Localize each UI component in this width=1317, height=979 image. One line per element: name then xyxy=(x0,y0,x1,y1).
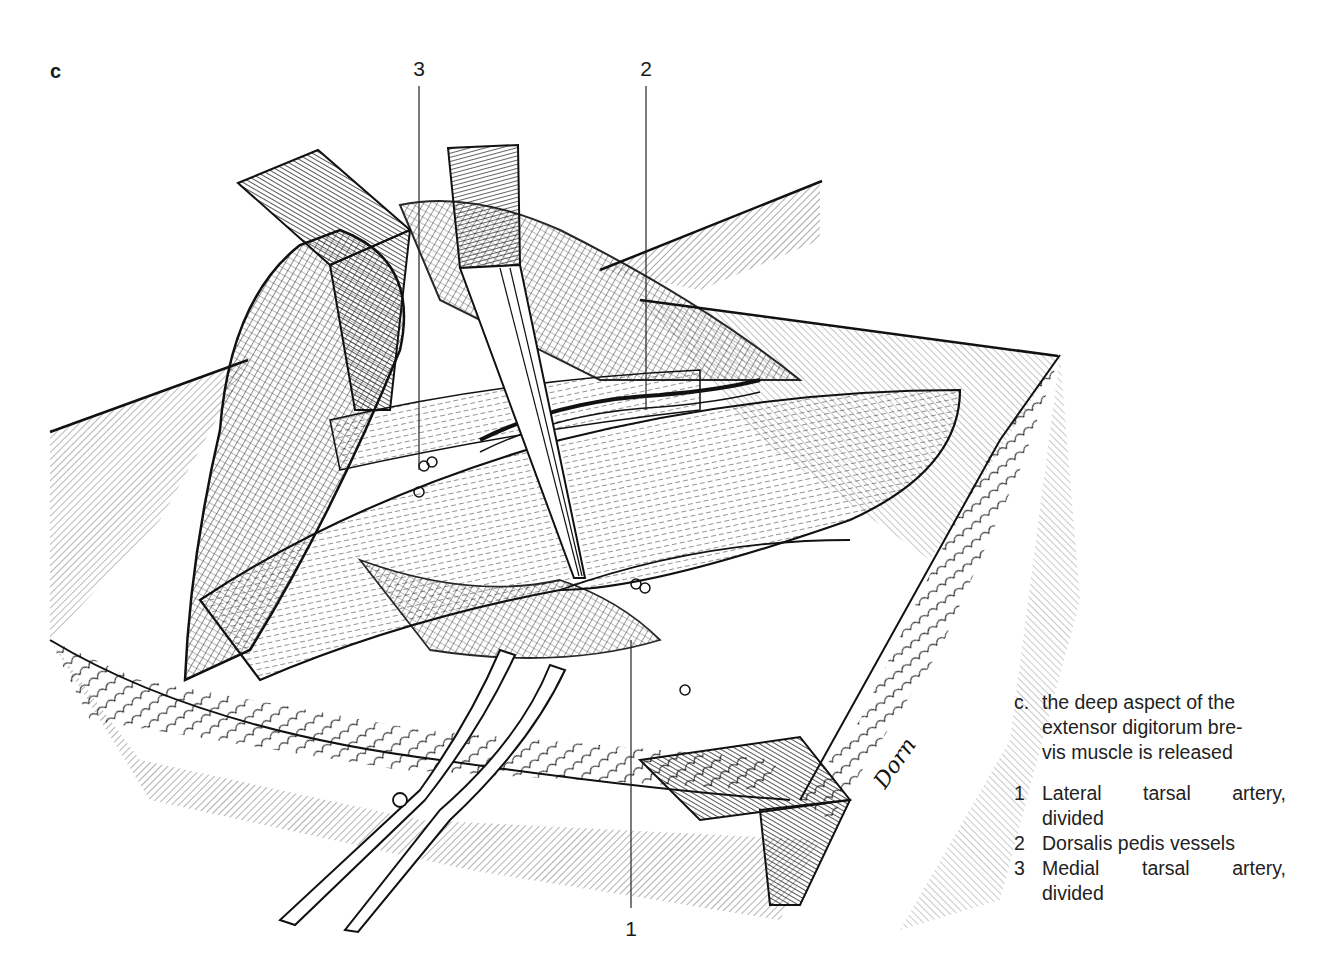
callout-label-1: 1 xyxy=(625,918,637,939)
figure-caption: c. the deep aspect of the extensor digit… xyxy=(1014,690,1286,906)
legend-item-1: 1 Lateral tarsal artery, divided xyxy=(1014,781,1286,831)
legend-number: 1 xyxy=(1014,781,1042,831)
caption-line: the deep aspect of the xyxy=(1042,690,1286,715)
legend-item-3: 3 Medial tarsal artery, divided xyxy=(1014,856,1286,906)
legend-text: Medial tarsal artery, xyxy=(1042,856,1286,881)
legend-item-2: 2 Dorsalis pedis vessels xyxy=(1014,831,1286,856)
legend-number: 2 xyxy=(1014,831,1042,856)
caption-text: the deep aspect of the extensor digitoru… xyxy=(1042,690,1286,765)
legend-text: Lateral tarsal artery, xyxy=(1042,781,1286,806)
callout-label-3: 3 xyxy=(413,58,425,79)
caption-line: extensor digitorum bre- xyxy=(1042,715,1286,740)
panel-letter: c xyxy=(50,60,61,83)
callout-label-2: 2 xyxy=(640,58,652,79)
caption-marker: c. xyxy=(1014,690,1042,765)
legend-text: divided xyxy=(1042,806,1286,831)
caption-line: vis muscle is released xyxy=(1042,740,1286,765)
scissors xyxy=(280,650,565,932)
legend-text: divided xyxy=(1042,881,1286,906)
legend-text: Dorsalis pedis vessels xyxy=(1042,831,1286,856)
caption-main: c. the deep aspect of the extensor digit… xyxy=(1014,690,1286,765)
legend-number: 3 xyxy=(1014,856,1042,906)
